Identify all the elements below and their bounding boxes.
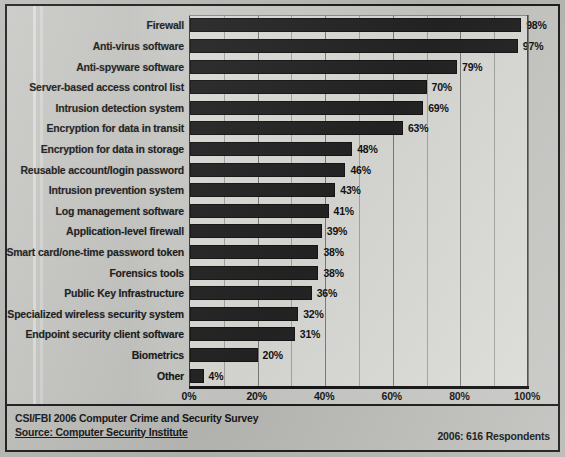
- bar: [190, 60, 457, 74]
- bar-row: Intrusion prevention system43%: [190, 180, 528, 201]
- bar-row: Log management software41%: [190, 201, 528, 222]
- bar-row: Endpoint security client software31%: [190, 324, 528, 345]
- bar-row: Forensics tools38%: [190, 262, 528, 283]
- plot-right-rule: [527, 15, 528, 387]
- bar: [190, 307, 298, 321]
- bar-value-label: 43%: [340, 184, 360, 196]
- category-label: Application-level firewall: [66, 225, 184, 237]
- category-label: Anti-spyware software: [76, 61, 184, 73]
- bar-value-label: 63%: [408, 122, 428, 134]
- bar-value-label: 98%: [526, 19, 546, 31]
- bar-row: Specialized wireless security system32%: [190, 304, 528, 325]
- bar: [190, 39, 518, 53]
- bar: [190, 224, 322, 238]
- bar: [190, 80, 427, 94]
- bar: [190, 163, 345, 177]
- chart-frame: Firewall98%Anti-virus software97%Anti-sp…: [5, 4, 560, 452]
- bar: [190, 286, 312, 300]
- category-label: Specialized wireless security system: [7, 308, 184, 320]
- bar-row: Application-level firewall39%: [190, 221, 528, 242]
- bar: [190, 101, 423, 115]
- footer-source-block: CSI/FBI 2006 Computer Crime and Security…: [15, 412, 258, 439]
- bar-value-label: 32%: [303, 308, 323, 320]
- bar-value-label: 36%: [317, 287, 337, 299]
- x-tick-label: 20%: [246, 390, 266, 402]
- x-tick-label: 0%: [182, 390, 197, 402]
- bar-value-label: 97%: [523, 40, 543, 52]
- bar-value-label: 70%: [432, 81, 452, 93]
- bar-value-label: 39%: [327, 225, 347, 237]
- x-tick-label: 60%: [382, 390, 402, 402]
- bar-value-label: 38%: [323, 246, 343, 258]
- bar-row: Smart card/one-time password token38%: [190, 242, 528, 263]
- category-label: Smart card/one-time password token: [6, 246, 184, 258]
- category-label: Encryption for data in transit: [46, 122, 184, 134]
- chart-figure: Firewall98%Anti-virus software97%Anti-sp…: [0, 0, 565, 457]
- bar-row: Anti-spyware software79%: [190, 56, 528, 77]
- x-tick-label: 40%: [314, 390, 334, 402]
- category-label: Intrusion detection system: [56, 102, 184, 114]
- bar-value-label: 41%: [334, 205, 354, 217]
- chart-plot-panel: Firewall98%Anti-virus software97%Anti-sp…: [7, 6, 558, 404]
- bar: [190, 348, 258, 362]
- category-label: Other: [157, 370, 184, 382]
- bar-value-label: 46%: [350, 164, 370, 176]
- bar: [190, 369, 204, 383]
- category-label: Intrusion prevention system: [49, 184, 184, 196]
- footer-source: Source: Computer Security Institute: [15, 426, 258, 440]
- bar-value-label: 79%: [462, 61, 482, 73]
- gridline-100: [528, 15, 529, 386]
- scan-seam-secondary: [40, 6, 43, 404]
- bar-row: Reusable account/login password46%: [190, 159, 528, 180]
- bar-row: Server-based access control list70%: [190, 77, 528, 98]
- bar-value-label: 48%: [357, 143, 377, 155]
- bar-value-label: 4%: [209, 370, 224, 382]
- category-label: Log management software: [56, 205, 184, 217]
- bar: [190, 204, 329, 218]
- scan-seam: [33, 6, 36, 404]
- bar-row: Encryption for data in storage48%: [190, 139, 528, 160]
- footer-survey-title: CSI/FBI 2006 Computer Crime and Security…: [15, 412, 258, 426]
- x-axis-tick-labels: 0%20%40%60%80%100%: [189, 390, 529, 406]
- bar-row: Anti-virus software97%: [190, 36, 528, 57]
- bar: [190, 183, 335, 197]
- bar-value-label: 69%: [428, 102, 448, 114]
- bar-row: Public Key Infrastructure36%: [190, 283, 528, 304]
- x-tick-label: 80%: [449, 390, 469, 402]
- chart-footer: CSI/FBI 2006 Computer Crime and Security…: [7, 406, 558, 450]
- x-tick-label: 100%: [514, 390, 540, 402]
- bar: [190, 18, 521, 32]
- plot-top-rule: [189, 15, 528, 16]
- bar: [190, 327, 295, 341]
- bar: [190, 142, 352, 156]
- bar: [190, 266, 318, 280]
- bar: [190, 245, 318, 259]
- bar-value-label: 31%: [300, 328, 320, 340]
- category-label: Reusable account/login password: [20, 164, 184, 176]
- plot-area: Firewall98%Anti-virus software97%Anti-sp…: [189, 15, 528, 386]
- category-label: Firewall: [147, 19, 185, 31]
- category-label: Forensics tools: [109, 267, 184, 279]
- category-label: Anti-virus software: [93, 40, 184, 52]
- bar-row: Firewall98%: [190, 15, 528, 36]
- bar-row: Encryption for data in transit63%: [190, 118, 528, 139]
- category-label: Endpoint security client software: [25, 328, 184, 340]
- footer-respondents: 2006: 616 Respondents: [437, 430, 550, 442]
- category-label: Biometrics: [132, 349, 184, 361]
- bar-row: Intrusion detection system69%: [190, 97, 528, 118]
- category-label: Encryption for data in storage: [41, 143, 184, 155]
- category-label: Public Key Infrastructure: [64, 287, 184, 299]
- bar-value-label: 38%: [323, 267, 343, 279]
- bar-row: Other4%: [190, 365, 528, 386]
- bar-row: Biometrics20%: [190, 345, 528, 366]
- category-label: Server-based access control list: [29, 81, 184, 93]
- bar-value-label: 20%: [263, 349, 283, 361]
- x-axis-line: [189, 386, 529, 389]
- bar: [190, 121, 403, 135]
